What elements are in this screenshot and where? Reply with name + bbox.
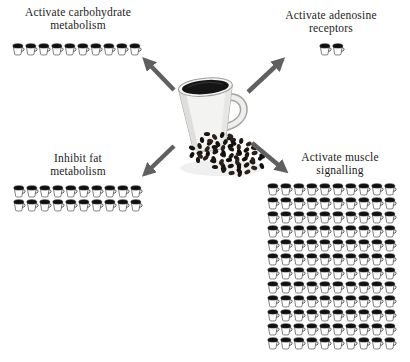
coffee-cup-icon (266, 294, 280, 308)
coffee-cup-icon (383, 336, 397, 350)
coffee-cup-icon (383, 182, 397, 196)
coffee-cup-icon (116, 184, 130, 198)
coffee-cup-icon (370, 238, 384, 252)
coffee-cup-icon (305, 210, 319, 224)
coffee-cup-icon (292, 182, 306, 196)
coffee-cup-icon (266, 196, 280, 210)
coffee-cup-icon (25, 198, 39, 212)
coffee-cup-icon (305, 252, 319, 266)
coffee-cup-icon (116, 198, 130, 212)
coffee-cup-icon (344, 322, 358, 336)
label-line: Activate muscle (276, 151, 404, 164)
coffee-cup-icon (129, 184, 143, 198)
coffee-cup-icon (292, 294, 306, 308)
coffee-cup-icon (357, 252, 371, 266)
coffee-cup-icon (305, 308, 319, 322)
coffee-cup-icon (50, 42, 64, 56)
coffee-cup-icon (76, 42, 90, 56)
coffee-cup-icon (266, 280, 280, 294)
coffee-cup-icon (370, 266, 384, 280)
coffee-cup-icon (279, 336, 293, 350)
coffee-cup-icon (102, 42, 116, 56)
coffee-cup-icon (266, 308, 280, 322)
coffee-cup-icon (292, 252, 306, 266)
group-label-carbohydrate-metabolism: Activate carbohydrate metabolism (8, 6, 148, 32)
coffee-cup-icon (383, 224, 397, 238)
coffee-cup-icon (64, 184, 78, 198)
coffee-cup-icon (292, 196, 306, 210)
coffee-cup-icon (383, 308, 397, 322)
coffee-cup-icon (357, 266, 371, 280)
coffee-cup-icon (305, 238, 319, 252)
coffee-cup-icon (318, 224, 332, 238)
coffee-cup-icon (370, 322, 384, 336)
coffee-cup-icon (370, 224, 384, 238)
coffee-cup-icon (331, 308, 345, 322)
coffee-cup-icon (370, 308, 384, 322)
coffee-cup-icon (305, 294, 319, 308)
label-line: Activate adenosine (266, 9, 396, 22)
coffee-cup-icon (318, 308, 332, 322)
coffee-cup-icon (357, 336, 371, 350)
coffee-cup-icon (357, 196, 371, 210)
coffee-cup-icon (305, 280, 319, 294)
coffee-cup-icon (318, 252, 332, 266)
coffee-cup-icon (331, 336, 345, 350)
coffee-cup-icon (266, 322, 280, 336)
coffee-cup-icon (89, 42, 103, 56)
coffee-cup-icon (115, 42, 129, 56)
coffee-mug-and-beans-image (170, 72, 274, 178)
coffee-cup-icon (77, 184, 91, 198)
coffee-cup-icon (370, 182, 384, 196)
coffee-cup-icon (383, 322, 397, 336)
coffee-cup-icon (331, 280, 345, 294)
coffee-cup-icon (25, 184, 39, 198)
coffee-cup-icon (279, 308, 293, 322)
label-line: metabolism (8, 19, 148, 32)
coffee-cup-icon (38, 184, 52, 198)
coffee-cup-icon (344, 336, 358, 350)
coffee-cup-icon (370, 280, 384, 294)
coffee-cup-icon (318, 280, 332, 294)
coffee-cup-icon (305, 224, 319, 238)
coffee-cup-icon (279, 210, 293, 224)
coffee-cup-icon (357, 294, 371, 308)
coffee-cup-icon (266, 210, 280, 224)
coffee-cup-icon (12, 198, 26, 212)
coffee-cup-icon (279, 182, 293, 196)
label-line: signalling (276, 164, 404, 177)
coffee-cup-icon (331, 224, 345, 238)
coffee-cup-icon (292, 210, 306, 224)
coffee-cup-icon (331, 266, 345, 280)
coffee-cup-icon (279, 196, 293, 210)
coffee-cup-icon (77, 198, 91, 212)
coffee-cup-icon (279, 224, 293, 238)
coffee-cup-icon (383, 238, 397, 252)
coffee-cup-icon (292, 280, 306, 294)
coffee-cup-icon (331, 294, 345, 308)
coffee-cup-icon (318, 294, 332, 308)
coffee-cup-icon (128, 42, 142, 56)
coffee-cup-icon (344, 294, 358, 308)
coffee-cup-icon (292, 238, 306, 252)
coffee-cup-icon (331, 252, 345, 266)
label-line: metabolism (8, 165, 148, 178)
coffee-cup-icon (279, 294, 293, 308)
coffee-cup-icon (344, 280, 358, 294)
coffee-cup-icon (279, 322, 293, 336)
coffee-cup-icon (318, 266, 332, 280)
coffee-cup-icon (305, 266, 319, 280)
coffee-cup-icon (318, 322, 332, 336)
coffee-cup-icon (11, 42, 25, 56)
coffee-cup-icon (344, 252, 358, 266)
coffee-cup-icon (266, 252, 280, 266)
coffee-cup-icon (331, 210, 345, 224)
coffee-cup-icon (129, 198, 143, 212)
cup-grid-carbohydrate-metabolism (11, 42, 141, 56)
coffee-cup-icon (331, 238, 345, 252)
coffee-cup-icon (383, 252, 397, 266)
coffee-cup-icon (357, 322, 371, 336)
coffee-cup-icon (103, 198, 117, 212)
coffee-cup-icon (292, 336, 306, 350)
group-label-fat-metabolism: Inhibit fat metabolism (8, 152, 148, 178)
